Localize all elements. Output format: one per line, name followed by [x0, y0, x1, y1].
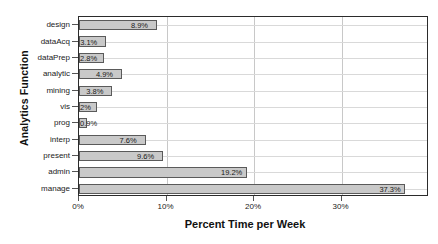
- x-tick-mark: [166, 196, 167, 201]
- y-tick-label-admin: admin: [22, 167, 70, 176]
- bar-value-label: 3.1%: [80, 37, 97, 46]
- y-tick-label-vis: vis: [22, 102, 70, 111]
- y-gridline: [79, 74, 427, 75]
- y-tick-mark: [72, 90, 78, 91]
- y-tick-mark: [72, 188, 78, 189]
- x-tick-mark: [253, 196, 254, 201]
- x-tick-label-10%: 10%: [157, 202, 173, 211]
- y-tick-mark: [72, 122, 78, 123]
- y-tick-mark: [72, 57, 78, 58]
- y-tick-label-dataAcq: dataAcq: [22, 36, 70, 45]
- y-tick-mark: [72, 155, 78, 156]
- y-tick-label-manage: manage: [22, 183, 70, 192]
- y-tick-label-mining: mining: [22, 85, 70, 94]
- bar-value-label: 9.6%: [137, 152, 154, 161]
- bar-value-label: 7.6%: [120, 135, 137, 144]
- y-tick-label-analytic: analytic: [22, 69, 70, 78]
- y-tick-label-dataPrep: dataPrep: [22, 52, 70, 61]
- bar-chart: Analytics Function designdataAcqdataPrep…: [0, 0, 438, 244]
- x-tick-mark: [341, 196, 342, 201]
- x-tick-mark: [78, 196, 79, 201]
- bar-value-label: 2%: [80, 103, 91, 112]
- y-tick-mark: [72, 106, 78, 107]
- bar-value-label: 0.9%: [80, 119, 97, 128]
- x-axis-title: Percent Time per Week: [60, 218, 430, 230]
- y-gridline: [79, 42, 427, 43]
- y-tick-mark: [72, 73, 78, 74]
- x-tick-label-0%: 0%: [72, 202, 84, 211]
- bar-value-label: 19.2%: [221, 168, 242, 177]
- x-gridline: [254, 17, 255, 195]
- y-tick-mark: [72, 171, 78, 172]
- y-gridline: [79, 107, 427, 108]
- y-axis-tick-labels: designdataAcqdataPrepanalyticminingvispr…: [22, 16, 70, 196]
- y-gridline: [79, 91, 427, 92]
- bar-value-label: 4.9%: [96, 70, 113, 79]
- plot-area: 8.9%3.1%2.8%4.9%3.8%2%0.9%7.6%9.6%19.2%3…: [78, 16, 428, 196]
- y-tick-mark: [72, 41, 78, 42]
- y-tick-label-design: design: [22, 20, 70, 29]
- bar-value-label: 2.8%: [80, 53, 97, 62]
- y-tick-label-present: present: [22, 151, 70, 160]
- x-tick-label-20%: 20%: [245, 202, 261, 211]
- bar: [79, 184, 405, 194]
- bar-value-label: 37.3%: [379, 184, 400, 193]
- y-tick-mark: [72, 24, 78, 25]
- bar-value-label: 8.9%: [131, 21, 148, 30]
- y-gridline: [79, 123, 427, 124]
- y-tick-mark: [72, 139, 78, 140]
- y-tick-label-interp: interp: [22, 134, 70, 143]
- x-gridline: [342, 17, 343, 195]
- x-tick-label-30%: 30%: [332, 202, 348, 211]
- bar-value-label: 3.8%: [86, 86, 103, 95]
- y-tick-label-prog: prog: [22, 118, 70, 127]
- y-gridline: [79, 58, 427, 59]
